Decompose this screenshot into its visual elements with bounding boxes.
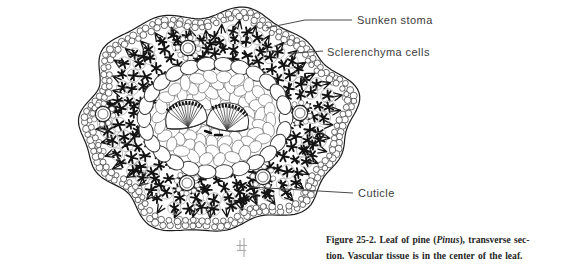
caption-figure-number: Figure 25-2. xyxy=(326,233,376,245)
scale-mark-icon xyxy=(237,238,248,257)
caption-line-1: Figure 25-2. Leaf of pine (Pinus), trans… xyxy=(326,231,544,247)
cuticle-label: Cuticle xyxy=(358,187,395,199)
pine-leaf-cross-section-illustration xyxy=(0,0,578,266)
caption-line-2: tion. Vascular tissue is in the center o… xyxy=(326,247,544,263)
leaf-drawing xyxy=(79,7,360,231)
figure-caption: Figure 25-2. Leaf of pine (Pinus), trans… xyxy=(326,231,544,263)
caption-species-italic: Pinus xyxy=(437,233,460,245)
sclerenchyma-cells-label: Sclerenchyma cells xyxy=(327,46,430,58)
textbook-figure-page: Sunken stoma Sclerenchyma cells Cuticle … xyxy=(0,0,578,266)
sunken-stoma-label: Sunken stoma xyxy=(357,14,433,26)
